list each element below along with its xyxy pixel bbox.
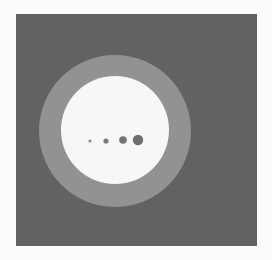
figure xyxy=(0,0,272,260)
dot-4 xyxy=(133,135,143,145)
inner-white-disc xyxy=(61,76,169,184)
concentric-circle-diagram xyxy=(0,0,272,260)
dot-3 xyxy=(119,136,127,144)
dot-2 xyxy=(103,138,108,143)
dot-1 xyxy=(88,139,91,142)
